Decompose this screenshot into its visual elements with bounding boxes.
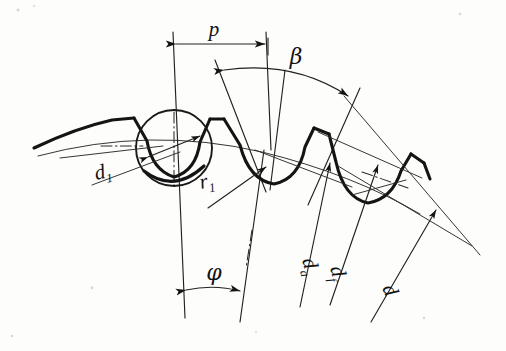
beta-arc: [224, 68, 348, 96]
d-leader-line: [371, 210, 436, 322]
r1-label: r1: [197, 167, 217, 196]
da-leader-group: da: [294, 163, 330, 307]
d-leader-group: d: [371, 210, 436, 322]
aux-ray-3: [344, 96, 480, 255]
profile-space-2: [224, 119, 314, 184]
beta-dimension-group: β: [224, 44, 348, 96]
centerline-axis-lower: [246, 230, 252, 268]
pitch-label: p: [207, 17, 220, 41]
profile-tooth-crest-3: [411, 154, 424, 163]
radial-line-center: [270, 70, 285, 190]
technical-drawing-canvas: p β φ: [0, 0, 506, 351]
radial-line-phi-right: [240, 150, 264, 322]
auxiliary-rays: [255, 96, 480, 255]
profile-left-land: [34, 118, 134, 148]
d-label: d: [377, 280, 403, 300]
phi-dimension-group: φ: [186, 260, 240, 291]
aux-ray-4: [338, 166, 472, 246]
da-leader-line: [300, 163, 330, 307]
beta-label: β: [289, 44, 303, 69]
profile-right-tail: [424, 163, 430, 179]
centerlines: [101, 112, 408, 268]
phi-arc: [186, 287, 240, 291]
phi-label: φ: [206, 260, 222, 285]
pitch-dimension-group: p: [176, 17, 265, 44]
da-label: da: [294, 255, 325, 279]
gear-tooth-profile-diagram: p β φ: [0, 0, 506, 351]
